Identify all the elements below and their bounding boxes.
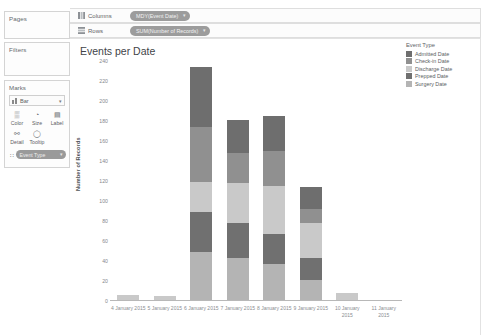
marks-buttons-row-1: ▒ Color ◔ Size ▤ Label: [5, 110, 69, 126]
bar-segment[interactable]: [300, 223, 322, 258]
bar-segment[interactable]: [190, 67, 212, 127]
bar-segment[interactable]: [263, 186, 285, 234]
marks-pill-event-type[interactable]: Event Type ▾: [16, 150, 67, 159]
x-tick-label: 9 January 2015: [293, 305, 330, 312]
legend-items: Admitted DateCheck-in DateDischarge Date…: [406, 51, 480, 87]
bar-segment[interactable]: [263, 234, 285, 264]
chevron-down-icon: ▾: [183, 13, 186, 18]
marks-button-color[interactable]: ▒ Color: [8, 110, 26, 126]
rows-pill-label: SUM(Number of Records): [136, 28, 198, 34]
bar-segment[interactable]: [227, 258, 249, 300]
y-tick-label: 240: [82, 58, 108, 64]
bar-segment[interactable]: [263, 116, 285, 151]
rows-pill-number-of-records[interactable]: SUM(Number of Records) ▾: [130, 26, 210, 36]
legend-swatch: [406, 73, 412, 79]
columns-pill-event-date[interactable]: MDY(Event Date) ▾: [130, 11, 190, 21]
y-tick-label: 160: [82, 138, 108, 144]
y-tick-label: 180: [82, 118, 108, 124]
marks-pill-label: Event Type: [20, 152, 46, 158]
x-tick-label: 4 January 2015: [110, 305, 147, 312]
legend-swatch: [406, 66, 412, 72]
legend-item[interactable]: Admitted Date: [406, 51, 480, 57]
bar-segment[interactable]: [190, 252, 212, 300]
y-tick-label: 20: [82, 278, 108, 284]
chevron-down-icon: ▾: [203, 28, 206, 33]
bar-stack[interactable]: [190, 67, 212, 300]
columns-shelf[interactable]: Columns MDY(Event Date) ▾: [70, 8, 481, 23]
columns-icon: [76, 12, 86, 19]
bar-segment[interactable]: [227, 223, 249, 258]
bar-segment[interactable]: [300, 209, 322, 223]
size-icon: ◔: [28, 110, 46, 119]
bar-segment[interactable]: [336, 293, 358, 300]
x-tick-label: 10 January 2015: [329, 305, 366, 318]
marks-color-pill-row: ∷ Event Type ▾: [10, 150, 66, 159]
tooltip-icon: ◯: [28, 130, 46, 139]
x-tick-label: 11 January 2015: [366, 305, 403, 318]
legend-swatch: [406, 51, 412, 57]
marks-button-label[interactable]: ▤ Label: [48, 110, 66, 126]
marks-type-dropdown[interactable]: Bar ▾: [9, 95, 65, 106]
x-tick-label: 5 January 2015: [147, 305, 184, 312]
y-tick-label: 200: [82, 98, 108, 104]
legend-item[interactable]: Discharge Date: [406, 66, 480, 72]
marks-label: Marks: [5, 81, 69, 91]
y-tick-label: 80: [82, 218, 108, 224]
marks-button-size[interactable]: ◔ Size: [28, 110, 46, 126]
legend-item[interactable]: Surgery Date: [406, 81, 480, 87]
bar-segment[interactable]: [190, 127, 212, 182]
y-tick-label: 0: [82, 298, 108, 304]
page-title: Events per Date: [80, 45, 155, 57]
pages-shelf[interactable]: Pages: [4, 11, 70, 39]
color-legend: Event Type Admitted DateCheck-in DateDis…: [406, 42, 480, 88]
bar-segment[interactable]: [227, 183, 249, 223]
bar-stack[interactable]: [117, 295, 139, 300]
marks-button-size-label: Size: [28, 120, 46, 126]
filters-shelf[interactable]: Filters: [4, 42, 70, 76]
legend-item[interactable]: Prepped Date: [406, 73, 480, 79]
rows-shelf[interactable]: Rows SUM(Number of Records) ▾: [70, 23, 481, 38]
bar-stack[interactable]: [300, 187, 322, 300]
bar-stack[interactable]: [227, 120, 249, 300]
pill-handle-icon: ∷: [10, 152, 14, 158]
legend-item-label: Admitted Date: [415, 51, 449, 57]
legend-item-label: Check-in Date: [415, 58, 449, 64]
legend-title: Event Type: [406, 42, 480, 48]
bar-segment[interactable]: [227, 153, 249, 183]
color-icon: ▒: [8, 110, 26, 119]
legend-item-label: Prepped Date: [415, 73, 448, 79]
bar-segment[interactable]: [154, 296, 176, 300]
chevron-down-icon: ▾: [59, 98, 62, 104]
bar-segment[interactable]: [190, 182, 212, 212]
y-axis-ticks: 020406080100120140160180200220240: [78, 61, 108, 301]
y-tick-label: 140: [82, 158, 108, 164]
bar-segment[interactable]: [227, 120, 249, 153]
bar-stack[interactable]: [336, 293, 358, 300]
bar-segment[interactable]: [263, 264, 285, 300]
y-tick-label: 60: [82, 238, 108, 244]
y-tick-label: 100: [82, 198, 108, 204]
x-tick-label: 8 January 2015: [256, 305, 293, 312]
filters-label: Filters: [5, 43, 69, 53]
columns-label: Columns: [88, 13, 124, 19]
marks-button-color-label: Color: [8, 120, 26, 126]
bar-segment[interactable]: [190, 212, 212, 252]
bar-segment[interactable]: [263, 151, 285, 186]
legend-item[interactable]: Check-in Date: [406, 58, 480, 64]
bar-segment[interactable]: [117, 295, 139, 300]
marks-button-detail[interactable]: ⚯ Detail: [8, 130, 26, 146]
bar-stack[interactable]: [154, 296, 176, 300]
marks-button-tooltip-label: Tooltip: [28, 139, 46, 145]
x-tick-label: 6 January 2015: [183, 305, 220, 312]
legend-item-label: Discharge Date: [415, 66, 452, 72]
bar-stack[interactable]: [263, 116, 285, 300]
label-icon: ▤: [48, 110, 66, 119]
rows-label: Rows: [88, 28, 124, 34]
bar-segment[interactable]: [300, 258, 322, 280]
marks-button-detail-label: Detail: [8, 139, 26, 145]
chevron-down-icon: ▾: [60, 152, 63, 157]
marks-type-value: Bar: [20, 98, 59, 104]
marks-button-tooltip[interactable]: ◯ Tooltip: [28, 130, 46, 146]
bar-segment[interactable]: [300, 280, 322, 300]
bar-segment[interactable]: [300, 187, 322, 209]
